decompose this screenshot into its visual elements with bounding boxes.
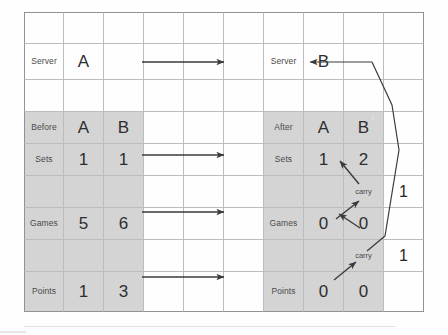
grid-cell-r3-c6[interactable]: After xyxy=(264,112,304,144)
grid-cell-r6-c9[interactable] xyxy=(384,208,424,240)
grid-cell-r4-c0[interactable]: Sets xyxy=(24,144,64,176)
grid-cell-r8-c7[interactable]: 0 xyxy=(304,272,344,312)
grid-cell-r7-c6[interactable] xyxy=(264,240,304,272)
grid-cell-r4-c2[interactable]: 1 xyxy=(104,144,144,176)
grid-cell-r7-c7[interactable] xyxy=(304,240,344,272)
grid-cell-r7-c9[interactable]: 1 xyxy=(384,240,424,272)
grid-cell-r8-c4[interactable] xyxy=(184,272,224,312)
grid-cell-r6-c7[interactable]: 0 xyxy=(304,208,344,240)
grid-cell-r4-c1[interactable]: 1 xyxy=(64,144,104,176)
grid-cell-r8-c3[interactable] xyxy=(144,272,184,312)
grid-cell-r1-c7[interactable]: B xyxy=(304,44,344,80)
server-label-after: Server xyxy=(264,44,303,79)
grid-cell-r8-c0[interactable]: Points xyxy=(24,272,64,312)
grid-cell-r0-c8[interactable] xyxy=(344,12,384,44)
grid-cell-r5-c6[interactable] xyxy=(264,176,304,208)
grid-cell-r3-c7[interactable]: A xyxy=(304,112,344,144)
grid-cell-r5-c8[interactable]: carry xyxy=(344,176,384,208)
grid-cell-r8-c2[interactable]: 3 xyxy=(104,272,144,312)
grid-cell-r2-c4[interactable] xyxy=(184,80,224,112)
grid-cell-r3-c8[interactable]: B xyxy=(344,112,384,144)
grid-cell-r7-c2[interactable] xyxy=(104,240,144,272)
grid-cell-r0-c0[interactable] xyxy=(24,12,64,44)
carry-value-0: 1 xyxy=(384,176,423,207)
grid-cell-r5-c5[interactable] xyxy=(224,176,264,208)
grid-cell-r6-c8[interactable]: 0 xyxy=(344,208,384,240)
grid-cell-r8-c9[interactable] xyxy=(384,272,424,312)
server-value-after: B xyxy=(304,44,343,79)
grid-cell-r4-c4[interactable] xyxy=(184,144,224,176)
grid-cell-r5-c0[interactable] xyxy=(24,176,64,208)
grid-cell-r3-c2[interactable]: B xyxy=(104,112,144,144)
grid-cell-r5-c7[interactable] xyxy=(304,176,344,208)
grid-cell-r2-c6[interactable] xyxy=(264,80,304,112)
grid-cell-r0-c6[interactable] xyxy=(264,12,304,44)
grid-cell-r5-c2[interactable] xyxy=(104,176,144,208)
grid-cell-r1-c2[interactable] xyxy=(104,44,144,80)
grid-cell-r2-c8[interactable] xyxy=(344,80,384,112)
grid-cell-r2-c7[interactable] xyxy=(304,80,344,112)
grid-cell-r7-c4[interactable] xyxy=(184,240,224,272)
grid-cell-r1-c1[interactable]: A xyxy=(64,44,104,80)
after-row-a-0: 1 xyxy=(304,144,343,175)
grid-cell-r2-c3[interactable] xyxy=(144,80,184,112)
grid-cell-r1-c5[interactable] xyxy=(224,44,264,80)
after-row-b-2: 0 xyxy=(344,272,383,311)
grid-cell-r2-c5[interactable] xyxy=(224,80,264,112)
page-edge-mark xyxy=(0,331,26,333)
grid-cell-r2-c9[interactable] xyxy=(384,80,424,112)
grid-cell-r6-c4[interactable] xyxy=(184,208,224,240)
grid-cell-r1-c9[interactable] xyxy=(384,44,424,80)
grid-cell-r2-c1[interactable] xyxy=(64,80,104,112)
grid-cell-r4-c7[interactable]: 1 xyxy=(304,144,344,176)
grid-cell-r8-c6[interactable]: Points xyxy=(264,272,304,312)
grid-cell-r5-c4[interactable] xyxy=(184,176,224,208)
grid-cell-r4-c9[interactable] xyxy=(384,144,424,176)
grid-cell-r0-c5[interactable] xyxy=(224,12,264,44)
grid-cell-r3-c0[interactable]: Before xyxy=(24,112,64,144)
grid-cell-r7-c3[interactable] xyxy=(144,240,184,272)
grid-cell-r1-c4[interactable] xyxy=(184,44,224,80)
after-header-a: A xyxy=(304,112,343,143)
grid-cell-r4-c3[interactable] xyxy=(144,144,184,176)
grid-cell-r1-c8[interactable] xyxy=(344,44,384,80)
grid-cell-r1-c3[interactable] xyxy=(144,44,184,80)
after-row-label-2: Points xyxy=(264,272,303,311)
grid-cell-r6-c1[interactable]: 5 xyxy=(64,208,104,240)
grid-cell-r5-c1[interactable] xyxy=(64,176,104,208)
grid-cell-r6-c6[interactable]: Games xyxy=(264,208,304,240)
grid-cell-r2-c2[interactable] xyxy=(104,80,144,112)
before-row-a-0: 1 xyxy=(64,144,103,175)
grid-cell-r2-c0[interactable] xyxy=(24,80,64,112)
grid-cell-r1-c6[interactable]: Server xyxy=(264,44,304,80)
grid-cell-r4-c5[interactable] xyxy=(224,144,264,176)
grid-cell-r3-c4[interactable] xyxy=(184,112,224,144)
grid-cell-r8-c5[interactable] xyxy=(224,272,264,312)
carry-label-0: carry xyxy=(344,176,383,207)
grid-cell-r6-c2[interactable]: 6 xyxy=(104,208,144,240)
grid-cell-r7-c8[interactable]: carry xyxy=(344,240,384,272)
grid-cell-r4-c8[interactable]: 2 xyxy=(344,144,384,176)
grid-cell-r0-c1[interactable] xyxy=(64,12,104,44)
grid-cell-r5-c3[interactable] xyxy=(144,176,184,208)
grid-cell-r0-c9[interactable] xyxy=(384,12,424,44)
grid-cell-r7-c0[interactable] xyxy=(24,240,64,272)
grid-cell-r8-c1[interactable]: 1 xyxy=(64,272,104,312)
grid-cell-r5-c9[interactable]: 1 xyxy=(384,176,424,208)
grid-cell-r3-c1[interactable]: A xyxy=(64,112,104,144)
grid-cell-r6-c3[interactable] xyxy=(144,208,184,240)
grid-cell-r3-c5[interactable] xyxy=(224,112,264,144)
grid-cell-r0-c2[interactable] xyxy=(104,12,144,44)
grid-cell-r6-c5[interactable] xyxy=(224,208,264,240)
grid-cell-r7-c5[interactable] xyxy=(224,240,264,272)
grid-cell-r3-c9[interactable] xyxy=(384,112,424,144)
grid-cell-r7-c1[interactable] xyxy=(64,240,104,272)
grid-cell-r0-c4[interactable] xyxy=(184,12,224,44)
grid-cell-r8-c8[interactable]: 0 xyxy=(344,272,384,312)
grid-cell-r1-c0[interactable]: Server xyxy=(24,44,64,80)
grid-cell-r4-c6[interactable]: Sets xyxy=(264,144,304,176)
grid-cell-r0-c7[interactable] xyxy=(304,12,344,44)
grid-cell-r6-c0[interactable]: Games xyxy=(24,208,64,240)
grid-cell-r3-c3[interactable] xyxy=(144,112,184,144)
grid-cell-r0-c3[interactable] xyxy=(144,12,184,44)
